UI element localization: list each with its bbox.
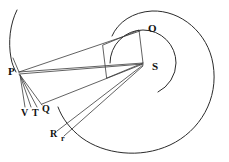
chord-s-r <box>57 65 143 131</box>
diagram-svg <box>0 0 229 162</box>
label-point-r-lower: r <box>61 135 65 143</box>
segment-p-t <box>20 75 31 107</box>
label-point-s: S <box>152 61 158 72</box>
label-point-o: O <box>148 23 157 34</box>
chord-s-r-lower <box>64 66 143 136</box>
label-point-t: T <box>32 108 39 118</box>
segment-p-q-outer <box>20 75 42 105</box>
outer-spiral-upper-left-arc <box>10 10 17 72</box>
label-point-p: P <box>8 66 15 77</box>
label-point-r-upper: R <box>50 129 57 139</box>
label-point-v: V <box>21 108 28 118</box>
label-point-q: Q <box>42 104 50 114</box>
chord-s-q <box>42 64 143 104</box>
figure-canvas: O S P Q T V R r <box>0 0 229 162</box>
